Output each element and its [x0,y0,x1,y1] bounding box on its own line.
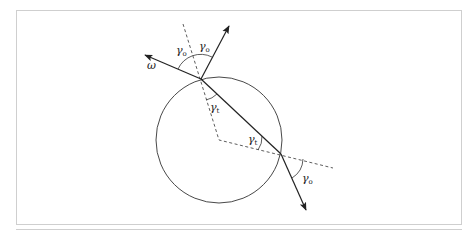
label-gamma-t-bottom: γt [248,133,258,147]
angle-arc-gamma-t-bottom [258,136,262,150]
refracted-chord [201,79,281,154]
angle-arc-gamma-t-top [206,94,217,100]
figure-frame [17,11,462,225]
label-omega: ω [147,59,156,72]
label-gamma-o-right: γo [199,40,210,54]
label-gamma-o-exit: γo [302,172,313,186]
sphere-refraction-diagram: ω γo γo γt γt γo [0,0,476,232]
label-gamma-o-left: γo [176,44,187,58]
label-gamma-t-top: γt [210,101,220,115]
